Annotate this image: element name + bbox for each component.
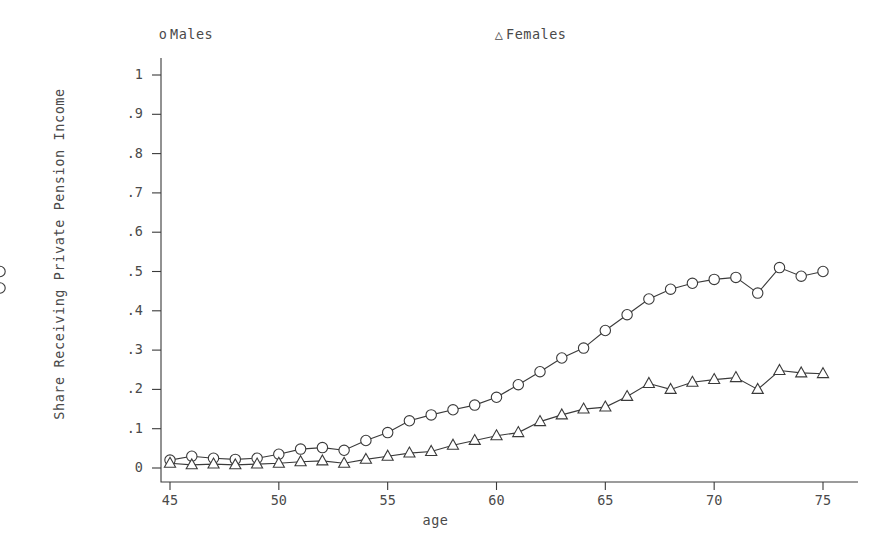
x-tick-label: 55 [368, 492, 408, 508]
data-point-circle [687, 278, 697, 288]
y-tick-label: 1 [103, 66, 143, 82]
data-point-circle [731, 272, 741, 282]
chart-figure: oMales △Females Share Receiving Private … [0, 0, 871, 548]
data-point-circle [535, 367, 545, 377]
data-point-circle [622, 310, 632, 320]
data-point-triangle [600, 401, 611, 411]
y-tick-label: .6 [103, 223, 143, 239]
data-point-triangle [513, 427, 524, 437]
data-point-circle [317, 442, 327, 452]
data-point-triangle [709, 374, 720, 384]
data-point-circle [491, 392, 501, 402]
data-point-triangle [752, 383, 763, 393]
y-tick-label: .7 [103, 184, 143, 200]
data-point-circle [600, 325, 610, 335]
data-point-circle [557, 353, 567, 363]
y-tick-label: 0 [103, 459, 143, 475]
data-point-triangle [317, 455, 328, 465]
y-tick-label: .9 [103, 105, 143, 121]
data-point-circle [448, 405, 458, 415]
axis-lines [161, 58, 858, 482]
y-tick-label: .2 [103, 380, 143, 396]
data-point-circle [578, 343, 588, 353]
data-point-triangle [730, 372, 741, 382]
x-tick-label: 75 [803, 492, 843, 508]
y-tick-label: .3 [103, 341, 143, 357]
data-point-triangle [796, 367, 807, 377]
data-point-circle [470, 400, 480, 410]
y-tick-label: .8 [103, 145, 143, 161]
data-point-circle [295, 444, 305, 454]
data-point-circle [404, 416, 414, 426]
y-tick-label: .4 [103, 302, 143, 318]
data-point-triangle [817, 368, 828, 378]
x-tick-label: 60 [477, 492, 517, 508]
x-tick-label: 50 [259, 492, 299, 508]
data-point-circle [513, 380, 523, 390]
data-point-circle [796, 271, 806, 281]
y-tick-label: .5 [103, 263, 143, 279]
data-point-circle [709, 274, 719, 284]
data-point-circle [361, 435, 371, 445]
y-tick-label: .1 [103, 420, 143, 436]
data-point-circle [818, 266, 828, 276]
data-point-triangle [273, 457, 284, 467]
data-point-circle [665, 284, 675, 294]
data-point-circle [0, 266, 5, 276]
data-point-circle [753, 288, 763, 298]
data-point-circle [774, 262, 784, 272]
x-tick-label: 65 [585, 492, 625, 508]
data-point-triangle [404, 447, 415, 457]
data-point-circle [383, 427, 393, 437]
data-point-triangle [622, 391, 633, 401]
data-point-circle [0, 283, 5, 293]
series-line [170, 371, 823, 465]
data-point-triangle [295, 456, 306, 466]
series-females [164, 365, 828, 469]
x-tick-label: 45 [150, 492, 190, 508]
data-point-circle [426, 410, 436, 420]
x-tick-label: 70 [694, 492, 734, 508]
data-point-triangle [643, 378, 654, 388]
data-point-circle [339, 445, 349, 455]
data-point-circle [644, 294, 654, 304]
data-point-triangle [578, 403, 589, 413]
data-point-triangle [774, 365, 785, 375]
